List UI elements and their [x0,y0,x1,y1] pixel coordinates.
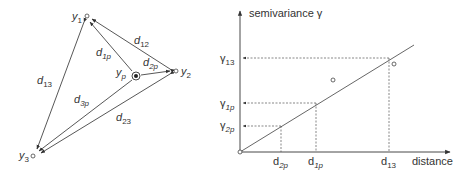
y-tick-gamma13: γ13 [220,52,235,67]
label-d23: d23 [116,111,132,126]
point-y1-marker [85,14,89,18]
empirical-point-1 [331,78,335,82]
origin-marker [238,150,242,154]
variogram-model-line [240,45,414,152]
x-tick-d2p: d2p [273,155,289,170]
label-y2: y2 [180,65,192,80]
label-d1p: d1p [96,46,112,61]
label-d12: d12 [134,34,150,49]
edge-d12 [92,19,170,69]
x-tick-d13: d13 [381,155,397,170]
label-y1: y1 [71,10,83,25]
label-yp: yp [115,66,127,81]
y-tick-gamma1p: γ1p [220,97,235,112]
point-network-diagram: y1 y2 y3 yp d12 d1p d2p d13 d3p d23 [18,10,192,164]
label-y3: y3 [18,149,30,164]
y-tick-gamma2p: γ2p [220,119,235,134]
label-d3p: d3p [74,93,90,108]
x-tick-d1p: d1p [308,155,324,170]
y-axis-label: semivariance γ [249,7,323,19]
point-y3-marker [31,154,35,158]
label-d2p: d2p [143,56,159,71]
label-d13: d13 [37,74,53,89]
point-y2-marker [174,69,178,73]
figure-canvas: y1 y2 y3 yp d12 d1p d2p d13 d3p d23 semi… [0,0,471,176]
empirical-point-2 [392,62,396,66]
semivariogram-chart: semivariance γ distance γ13 γ1p γ2p d2p … [220,7,453,170]
edge-d2p [141,71,170,75]
point-yp-marker [132,72,140,80]
x-axis-label: distance [412,155,453,167]
